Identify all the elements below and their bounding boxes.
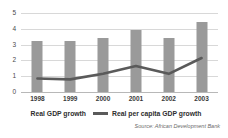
x-tick-label-2002: 2002: [162, 95, 176, 103]
x-tick-label-1998: 1998: [30, 95, 44, 103]
y-tick-label-1: 1: [0, 73, 16, 80]
y-tick-label-5: 5: [0, 10, 16, 17]
line-series-real-per-capita-gdp-growth: [21, 13, 218, 92]
source-attribution: Source: African Development Bank: [135, 123, 220, 129]
y-tick-label-0: 0: [0, 89, 16, 96]
chart-legend: Real GDP growth Real per capita GDP grow…: [0, 110, 228, 117]
legend-item-line-series: Real per capita GDP growth: [93, 110, 201, 117]
x-tick-label-2001: 2001: [129, 95, 143, 103]
legend-label-line-series: Real per capita GDP growth: [112, 110, 201, 117]
line-path: [37, 58, 201, 79]
x-tick-label-2003: 2003: [194, 95, 208, 103]
legend-swatch-line-icon: [93, 112, 108, 115]
plot-area: [21, 13, 218, 92]
gdp-growth-chart: 543210 199819992000200120022003 Real GDP…: [0, 0, 228, 138]
legend-label-bar-series: Real GDP growth: [31, 110, 86, 117]
x-tick-label-2000: 2000: [96, 95, 110, 103]
y-tick-label-4: 4: [0, 26, 16, 33]
y-tick-label-2: 2: [0, 57, 16, 64]
gridline-0: [21, 92, 218, 93]
x-tick-label-1999: 1999: [63, 95, 77, 103]
x-axis-tick-labels: 199819992000200120022003: [21, 95, 218, 105]
legend-item-bar-series: Real GDP growth: [27, 110, 86, 117]
y-tick-label-3: 3: [0, 42, 16, 49]
